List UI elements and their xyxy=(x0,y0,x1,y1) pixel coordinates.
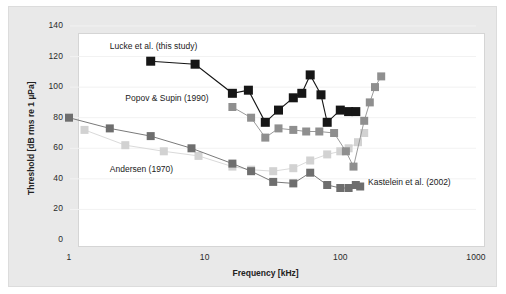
data-point-marker xyxy=(121,141,129,149)
data-point-marker xyxy=(336,184,344,192)
chart-root: 020406080100120140 1101001000 Threshold … xyxy=(0,0,506,294)
data-point-marker xyxy=(350,163,358,171)
data-point-marker xyxy=(247,167,255,175)
data-point-marker xyxy=(315,128,323,136)
data-point-marker xyxy=(289,93,298,102)
y-tick-label: 140 xyxy=(23,20,63,30)
data-point-marker xyxy=(275,124,283,132)
data-point-marker xyxy=(274,106,283,115)
data-point-marker xyxy=(261,118,270,127)
data-point-marker xyxy=(371,83,379,91)
data-point-marker xyxy=(228,103,236,111)
data-point-marker xyxy=(269,167,277,175)
data-point-marker xyxy=(195,152,203,160)
y-tick-label: 120 xyxy=(23,51,63,61)
data-point-marker xyxy=(351,107,360,116)
x-tick-label: 1 xyxy=(44,252,94,262)
data-point-marker xyxy=(366,98,374,106)
data-point-marker xyxy=(269,178,277,186)
data-point-marker xyxy=(228,160,236,168)
y-tick-label: 20 xyxy=(23,203,63,213)
data-point-marker xyxy=(360,117,368,125)
x-axis-title: Frequency [kHz] xyxy=(233,268,299,278)
data-point-marker xyxy=(160,147,168,155)
data-point-marker xyxy=(377,72,385,80)
data-point-marker xyxy=(289,126,297,134)
data-point-marker xyxy=(306,157,314,165)
data-point-marker xyxy=(289,179,297,187)
data-point-marker xyxy=(247,114,255,122)
data-point-marker xyxy=(323,181,331,189)
data-point-marker xyxy=(330,129,338,137)
series-label-kastelein: Kastelein et al. (2002) xyxy=(368,177,451,187)
data-point-marker xyxy=(244,86,253,95)
y-tick-label: 0 xyxy=(23,234,63,244)
data-point-marker xyxy=(317,90,326,99)
data-point-marker xyxy=(323,150,331,158)
y-axis-title: Threshold [dB rms re 1 µPa] xyxy=(26,81,36,195)
data-point-marker xyxy=(342,147,350,155)
data-point-marker xyxy=(306,70,315,79)
series-label-popov-supin: Popov & Supin (1990) xyxy=(125,93,208,103)
data-point-marker xyxy=(336,106,345,115)
x-tick-label: 10 xyxy=(180,252,230,262)
data-point-marker xyxy=(302,128,310,136)
data-point-marker xyxy=(356,183,364,191)
data-point-marker xyxy=(306,169,314,177)
data-point-marker xyxy=(289,164,297,172)
data-point-marker xyxy=(81,126,89,134)
x-tick-label: 100 xyxy=(315,252,365,262)
data-point-marker xyxy=(354,138,362,146)
series-label-lucke: Lucke et al. (this study) xyxy=(110,41,197,51)
data-point-marker xyxy=(147,132,155,140)
data-point-marker xyxy=(106,124,114,132)
data-point-marker xyxy=(228,89,237,98)
series-label-andersen: Andersen (1970) xyxy=(110,164,173,174)
data-point-marker xyxy=(65,114,73,122)
data-point-marker xyxy=(261,134,269,142)
data-point-marker xyxy=(297,89,306,98)
data-point-marker xyxy=(323,118,332,127)
data-point-marker xyxy=(191,60,200,69)
x-tick-label: 1000 xyxy=(451,252,501,262)
data-point-marker xyxy=(345,184,353,192)
data-point-marker xyxy=(188,144,196,152)
data-point-marker xyxy=(146,57,155,66)
series-2 xyxy=(65,114,364,192)
chart-canvas xyxy=(0,0,506,294)
